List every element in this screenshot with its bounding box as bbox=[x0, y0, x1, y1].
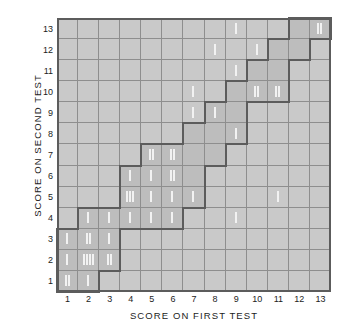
tally-mark bbox=[214, 107, 216, 118]
grid-cell bbox=[78, 123, 99, 144]
band-outline-segment bbox=[98, 270, 121, 272]
band-outline-segment bbox=[225, 80, 248, 82]
grid-cell bbox=[205, 187, 226, 208]
tally-group bbox=[226, 18, 246, 38]
grid-cell bbox=[57, 123, 78, 144]
grid-cell bbox=[205, 271, 226, 292]
band-outline-segment bbox=[309, 38, 332, 40]
grid-cell bbox=[183, 208, 204, 229]
band-outline-segment bbox=[267, 38, 290, 40]
band-outline-segment bbox=[246, 101, 269, 103]
tally-mark bbox=[257, 86, 259, 97]
grid-cell bbox=[162, 166, 183, 187]
grid-cell bbox=[310, 271, 331, 292]
band-outline-segment bbox=[182, 122, 205, 124]
grid-cell bbox=[268, 229, 289, 250]
grid-cell bbox=[162, 187, 183, 208]
grid-cell bbox=[57, 18, 78, 39]
tally-mark bbox=[126, 191, 128, 202]
grid-cell bbox=[99, 123, 120, 144]
band-outline-segment bbox=[309, 38, 311, 61]
y-tick-label: 7 bbox=[35, 150, 53, 160]
grid-cell bbox=[247, 60, 268, 81]
grid-cell bbox=[310, 102, 331, 123]
x-tick-label: 8 bbox=[205, 294, 226, 304]
grid-cell bbox=[247, 208, 268, 229]
grid-cell bbox=[162, 144, 183, 165]
grid-cell bbox=[205, 60, 226, 81]
tally-group bbox=[78, 271, 98, 291]
plot-area bbox=[57, 18, 331, 292]
tally-group bbox=[78, 229, 98, 249]
grid-cell bbox=[205, 39, 226, 60]
grid-cell bbox=[310, 81, 331, 102]
band-outline-segment bbox=[161, 228, 184, 230]
band-outline-segment bbox=[225, 143, 227, 166]
grid-cell bbox=[268, 18, 289, 39]
grid-cell bbox=[310, 144, 331, 165]
band-outline-segment bbox=[288, 59, 311, 61]
grid-cell bbox=[247, 187, 268, 208]
grid-cell bbox=[247, 102, 268, 123]
tally-group bbox=[268, 81, 288, 101]
grid-cell bbox=[99, 229, 120, 250]
y-tick-label: 12 bbox=[35, 45, 53, 55]
grid-cell bbox=[57, 229, 78, 250]
band-outline-segment bbox=[288, 80, 290, 103]
x-tick-label: 6 bbox=[162, 294, 183, 304]
grid-cell bbox=[99, 39, 120, 60]
x-tick-label: 2 bbox=[78, 294, 99, 304]
band-outline-segment bbox=[119, 165, 142, 167]
tally-mark bbox=[108, 233, 110, 244]
tally-mark bbox=[65, 275, 67, 286]
band-outline-segment bbox=[182, 207, 205, 209]
grid-cell bbox=[120, 18, 141, 39]
tally-group bbox=[57, 229, 77, 249]
grid-cell bbox=[183, 250, 204, 271]
grid-cell bbox=[289, 208, 310, 229]
grid-cell bbox=[268, 60, 289, 81]
grid-cell bbox=[162, 60, 183, 81]
grid-cell bbox=[162, 208, 183, 229]
band-outline-segment bbox=[77, 207, 100, 209]
grid-cell bbox=[247, 229, 268, 250]
grid-cell bbox=[120, 271, 141, 292]
tally-mark bbox=[152, 149, 154, 160]
band-outline-segment bbox=[161, 143, 184, 145]
grid-cell bbox=[183, 229, 204, 250]
grid-cell bbox=[289, 81, 310, 102]
grid-cell bbox=[99, 208, 120, 229]
band-outline-segment bbox=[119, 228, 121, 251]
grid-cell bbox=[310, 229, 331, 250]
grid-cell bbox=[57, 208, 78, 229]
band-outline-segment bbox=[56, 228, 58, 251]
grid-cell bbox=[183, 18, 204, 39]
tally-group bbox=[57, 250, 77, 270]
x-tick-label: 9 bbox=[226, 294, 247, 304]
grid-cell bbox=[310, 208, 331, 229]
grid-cell bbox=[57, 81, 78, 102]
band-outline-segment bbox=[119, 186, 121, 209]
x-tick-label: 10 bbox=[247, 294, 268, 304]
tally-group bbox=[183, 81, 203, 101]
tally-mark bbox=[87, 212, 89, 223]
grid-cell bbox=[141, 208, 162, 229]
grid-cell bbox=[205, 102, 226, 123]
grid-cell bbox=[310, 123, 331, 144]
band-outline-segment bbox=[119, 165, 121, 188]
tally-group bbox=[162, 144, 182, 164]
tally-mark bbox=[89, 254, 91, 265]
band-outline-segment bbox=[288, 17, 311, 19]
band-outline-segment bbox=[246, 101, 248, 124]
grid-cell bbox=[78, 102, 99, 123]
tally-mark bbox=[68, 275, 70, 286]
grid-cell bbox=[268, 123, 289, 144]
grid-cell bbox=[141, 123, 162, 144]
tally-mark bbox=[192, 107, 194, 118]
grid-cell bbox=[78, 271, 99, 292]
grid-cell bbox=[78, 39, 99, 60]
grid-cell bbox=[205, 81, 226, 102]
tally-group bbox=[162, 208, 182, 228]
grid-cell bbox=[247, 144, 268, 165]
band-outline-segment bbox=[225, 80, 227, 103]
